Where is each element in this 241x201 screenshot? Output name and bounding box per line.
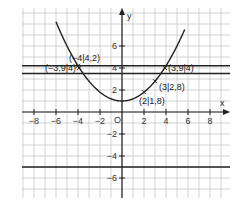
x-tick-label: −8 [29, 116, 39, 126]
point-label: (3|2,8) [159, 82, 185, 92]
y-tick-label: 2 [112, 85, 117, 95]
grid [22, 8, 230, 198]
y-axis-label: y [127, 11, 132, 21]
y-tick-label: 6 [112, 41, 117, 51]
coordinate-plot: xyO−8−6−4−22468−6−4−2246 (−4|4,2)(−3,9|4… [0, 0, 241, 201]
point-label: (3,9|4) [168, 63, 194, 73]
y-tick-label: 4 [112, 63, 117, 73]
point-label: (−3,9|4) [45, 63, 76, 73]
y-tick-label: −2 [107, 129, 117, 139]
y-tick-label: −4 [107, 151, 117, 161]
origin-label: O [114, 115, 121, 125]
x-tick-label: 4 [163, 116, 168, 126]
point-label: (−4|4,2) [69, 53, 100, 63]
x-axis-arrow-icon [223, 109, 230, 115]
x-tick-label: −4 [73, 116, 83, 126]
x-tick-label: 6 [185, 116, 190, 126]
y-tick-label: −6 [107, 173, 117, 183]
x-tick-label: 8 [207, 116, 212, 126]
x-tick-label: −2 [95, 116, 105, 126]
y-axis-arrow-icon [119, 8, 125, 15]
x-axis-label: x [220, 98, 225, 108]
point-label: (2|1,8) [139, 96, 165, 106]
x-tick-label: 2 [141, 116, 146, 126]
x-tick-label: −6 [51, 116, 61, 126]
